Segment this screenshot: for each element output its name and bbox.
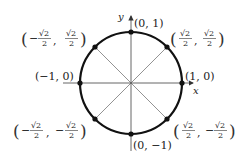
- unit-circle-diagram: y x (0, 1) (1, 0) (0, −1) (−1, 0) ( − √2…: [0, 0, 245, 159]
- svg-text:(: (: [13, 121, 20, 141]
- point-q1-label: ( √2 2 , √2 2 ): [170, 29, 225, 49]
- point-q3-dot: [92, 116, 97, 121]
- svg-text:−: −: [21, 124, 30, 137]
- svg-text:): ): [218, 29, 225, 49]
- point-neg1-0-label: (−1, 0): [35, 70, 74, 83]
- svg-text:): ): [80, 121, 87, 141]
- svg-text:2: 2: [218, 131, 223, 140]
- svg-text:2: 2: [42, 39, 47, 48]
- svg-text:,: ,: [194, 34, 198, 47]
- svg-text:,: ,: [197, 126, 201, 139]
- svg-text:,: ,: [46, 126, 50, 139]
- svg-text:√2: √2: [215, 121, 225, 130]
- point-q3-label: ( − √2 2 , − √2 2 ): [13, 121, 87, 141]
- svg-text:2: 2: [69, 39, 74, 48]
- svg-text:−: −: [205, 124, 214, 137]
- svg-text:): ): [80, 29, 87, 49]
- point-q4-dot: [164, 116, 169, 121]
- svg-text:(: (: [170, 29, 177, 49]
- svg-text:√2: √2: [39, 29, 49, 38]
- svg-text:2: 2: [69, 131, 74, 140]
- point-0-1-dot: [128, 29, 133, 34]
- y-axis-label: y: [117, 11, 124, 22]
- point-q2-label: ( − √2 2 , √2 2 ): [21, 29, 87, 49]
- svg-text:2: 2: [207, 39, 212, 48]
- svg-text:√2: √2: [66, 121, 76, 130]
- svg-text:√2: √2: [180, 29, 190, 38]
- point-neg1-0-dot: [77, 80, 82, 85]
- x-axis-label: x: [193, 85, 199, 96]
- svg-text:(: (: [21, 29, 28, 49]
- point-1-0-label: (1, 0): [185, 70, 215, 83]
- svg-text:(: (: [173, 121, 180, 141]
- svg-text:2: 2: [183, 39, 188, 48]
- svg-text:√2: √2: [204, 29, 214, 38]
- point-0-1-label: (0, 1): [134, 17, 164, 30]
- point-1-0-dot: [179, 80, 184, 85]
- point-q2-dot: [92, 44, 97, 49]
- point-0-neg1-label: (0, −1): [133, 139, 172, 152]
- svg-text:√2: √2: [183, 121, 193, 130]
- svg-text:2: 2: [186, 131, 191, 140]
- svg-text:√2: √2: [31, 121, 41, 130]
- svg-text:−: −: [29, 32, 38, 45]
- svg-text:−: −: [55, 124, 64, 137]
- point-0-neg1-dot: [128, 131, 133, 136]
- svg-text:2: 2: [34, 131, 39, 140]
- svg-text:√2: √2: [66, 29, 76, 38]
- point-q4-label: ( √2 2 , − √2 2 ): [173, 121, 236, 141]
- svg-text:,: ,: [53, 34, 57, 47]
- svg-text:): ): [229, 121, 236, 141]
- point-q1-dot: [164, 44, 169, 49]
